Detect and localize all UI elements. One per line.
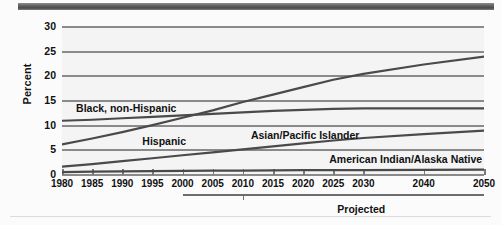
x-tick-label: 2010 [232, 178, 254, 189]
x-tick-label: 2030 [352, 178, 374, 189]
y-tick-label: 10 [32, 119, 56, 131]
y-tick-label: 30 [32, 20, 56, 32]
projected-tick [243, 194, 245, 200]
x-tick-label: 2000 [171, 178, 193, 189]
projected-range-line [183, 194, 484, 196]
y-tick-label: 20 [32, 69, 56, 81]
x-tick-label: 2005 [202, 178, 224, 189]
series-label: Hispanic [140, 135, 188, 147]
series-line [62, 170, 484, 172]
x-tick-label: 1995 [141, 178, 163, 189]
x-tick [484, 169, 486, 175]
x-tick-label: 1980 [51, 178, 73, 189]
plot-area: Black, non-HispanicHispanicAsian/Pacific… [62, 27, 484, 175]
x-tick-label: 1985 [81, 178, 103, 189]
series-label: Black, non-Hispanic [74, 102, 178, 114]
series-label: Asian/Pacific Islander [249, 129, 362, 141]
x-tick-label: 2025 [322, 178, 344, 189]
top-divider-rule [18, 3, 494, 10]
series-label: American Indian/Alaska Native [327, 153, 484, 165]
projected-label: Projected [337, 203, 385, 215]
x-tick-label: 1990 [111, 178, 133, 189]
chart-figure: Percent 051015202530 Black, non-Hispanic… [0, 0, 501, 225]
y-tick-label: 25 [32, 45, 56, 57]
y-axis-title: Percent [21, 49, 33, 119]
bottom-divider-rule [10, 216, 491, 217]
x-tick-label: 2015 [262, 178, 284, 189]
x-tick-label: 2040 [413, 178, 435, 189]
y-tick-label: 15 [32, 94, 56, 106]
y-tick-label: 5 [32, 143, 56, 155]
x-tick-label: 2020 [292, 178, 314, 189]
x-tick-label: 2050 [473, 178, 495, 189]
